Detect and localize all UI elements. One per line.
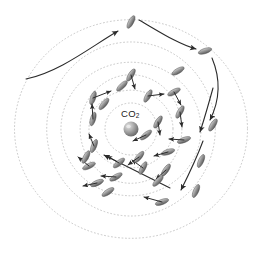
rod-particle	[156, 163, 172, 179]
diagram-svg	[0, 0, 258, 265]
rod-particle	[191, 184, 201, 199]
rod-body	[101, 186, 116, 198]
rod-particle	[152, 115, 164, 135]
rod-particle	[144, 197, 169, 207]
rod-particle	[101, 171, 123, 183]
trajectory-arrow	[139, 20, 196, 49]
rod-particle	[107, 156, 126, 169]
rod-particle	[154, 147, 175, 156]
co2-sphere-layer	[124, 122, 139, 137]
rod-particle	[128, 150, 145, 165]
rod-body	[171, 65, 186, 77]
rod-particle	[101, 186, 116, 198]
rod-body	[80, 150, 91, 165]
rod-body	[191, 184, 201, 199]
rod-particle	[151, 174, 164, 188]
rod-body	[125, 15, 136, 30]
velocity-arrow	[107, 156, 119, 163]
rod-particle	[167, 86, 182, 105]
co2-label-subscript: 2	[136, 112, 140, 119]
rod-particle	[125, 68, 137, 89]
trajectory-arrow	[26, 31, 118, 79]
particle-layer	[78, 15, 219, 207]
rod-particle	[125, 15, 136, 30]
velocity-arrow	[144, 197, 162, 202]
velocity-arrow	[89, 134, 94, 146]
trajectory-arrow	[210, 58, 218, 120]
rod-particle	[83, 178, 104, 188]
co2-label: CO2	[121, 108, 140, 119]
rod-body	[207, 118, 219, 133]
rod-particle	[207, 118, 219, 133]
rod-particle	[198, 46, 213, 55]
rod-particle	[174, 105, 186, 127]
rod-particle	[171, 65, 186, 77]
diagram-canvas: CO2	[0, 0, 258, 265]
sphere-highlight	[126, 125, 131, 129]
co2-sphere	[124, 122, 139, 137]
co2-label-base: CO	[121, 108, 136, 119]
rod-body	[151, 174, 164, 188]
rod-particle	[80, 150, 91, 165]
rod-particle	[89, 134, 99, 153]
rod-body	[198, 46, 213, 55]
rod-particle	[89, 104, 98, 126]
velocity-arrow	[174, 92, 181, 105]
